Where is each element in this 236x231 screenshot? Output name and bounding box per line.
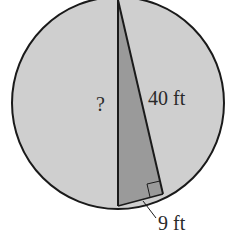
short-leg-label: 9 ft: [158, 212, 186, 231]
geometry-diagram: ? 40 ft 9 ft: [0, 0, 236, 231]
hypotenuse-label: 40 ft: [148, 87, 186, 109]
unknown-label: ?: [96, 93, 105, 115]
